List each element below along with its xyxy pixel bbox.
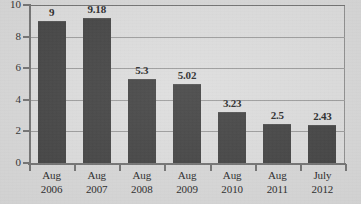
category-label-line: Aug bbox=[255, 168, 300, 182]
bar-value-label: 3.23 bbox=[223, 98, 241, 109]
category-label-line: 2012 bbox=[300, 182, 345, 196]
category-label-line: Aug bbox=[119, 168, 164, 182]
bar-value-label: 9.18 bbox=[87, 4, 105, 15]
bar-group[interactable]: 5.3 bbox=[128, 5, 156, 163]
bar-group[interactable]: 2.5 bbox=[263, 5, 291, 163]
bar[interactable] bbox=[128, 79, 156, 163]
category-label-line: July bbox=[300, 168, 345, 182]
y-axis-tick-labels: 0246810 bbox=[0, 0, 21, 204]
y-axis-tick-label: 2 bbox=[0, 125, 21, 136]
y-axis-tick-mark bbox=[23, 130, 29, 132]
bar[interactable] bbox=[263, 124, 291, 164]
category-label: Aug2011 bbox=[255, 168, 300, 196]
category-label-line: 2010 bbox=[210, 182, 255, 196]
x-axis-tick-mark bbox=[345, 164, 347, 171]
bar-value-label: 2.43 bbox=[313, 111, 331, 122]
category-label-line: Aug bbox=[29, 168, 74, 182]
y-axis-tick-mark bbox=[23, 4, 29, 6]
y-axis-tick-label: 4 bbox=[0, 94, 21, 105]
y-axis-line bbox=[29, 4, 31, 166]
category-label: Aug2009 bbox=[164, 168, 209, 196]
bar-value-label: 5.02 bbox=[178, 70, 196, 81]
bars-layer: 99.185.35.023.232.52.43 bbox=[29, 5, 345, 163]
bar-value-label: 5.3 bbox=[135, 65, 148, 76]
category-label-line: 2007 bbox=[74, 182, 119, 196]
bar-value-label: 9 bbox=[49, 7, 54, 18]
y-axis-tick-label: 10 bbox=[0, 0, 21, 10]
y-axis-tick-mark bbox=[23, 36, 29, 38]
bar-chart: 0246810 99.185.35.023.232.52.43 Aug2006A… bbox=[0, 0, 361, 204]
y-axis-tick-label: 6 bbox=[0, 62, 21, 73]
bar[interactable] bbox=[218, 112, 246, 163]
category-label-line: 2009 bbox=[164, 182, 209, 196]
category-label: Aug2010 bbox=[210, 168, 255, 196]
bar-group[interactable]: 5.02 bbox=[173, 5, 201, 163]
x-axis-category-labels: Aug2006Aug2007Aug2008Aug2009Aug2010Aug20… bbox=[29, 168, 345, 202]
category-label-line: Aug bbox=[164, 168, 209, 182]
bar-value-label: 2.5 bbox=[271, 110, 284, 121]
y-axis-tick-mark bbox=[23, 67, 29, 69]
bar-group[interactable]: 2.43 bbox=[308, 5, 336, 163]
bar[interactable] bbox=[308, 125, 336, 163]
bar[interactable] bbox=[38, 21, 66, 163]
category-label: Aug2006 bbox=[29, 168, 74, 196]
bar-group[interactable]: 9 bbox=[38, 5, 66, 163]
category-label: July2012 bbox=[300, 168, 345, 196]
y-axis-tick-mark bbox=[23, 99, 29, 101]
bar-group[interactable]: 9.18 bbox=[83, 5, 111, 163]
bar[interactable] bbox=[173, 84, 201, 163]
category-label: Aug2008 bbox=[119, 168, 164, 196]
bar-group[interactable]: 3.23 bbox=[218, 5, 246, 163]
y-axis-tick-label: 8 bbox=[0, 31, 21, 42]
bar[interactable] bbox=[83, 18, 111, 163]
y-axis-tick-label: 0 bbox=[0, 157, 21, 168]
category-label: Aug2007 bbox=[74, 168, 119, 196]
category-label-line: 2011 bbox=[255, 182, 300, 196]
category-label-line: 2008 bbox=[119, 182, 164, 196]
category-label-line: Aug bbox=[74, 168, 119, 182]
category-label-line: 2006 bbox=[29, 182, 74, 196]
category-label-line: Aug bbox=[210, 168, 255, 182]
